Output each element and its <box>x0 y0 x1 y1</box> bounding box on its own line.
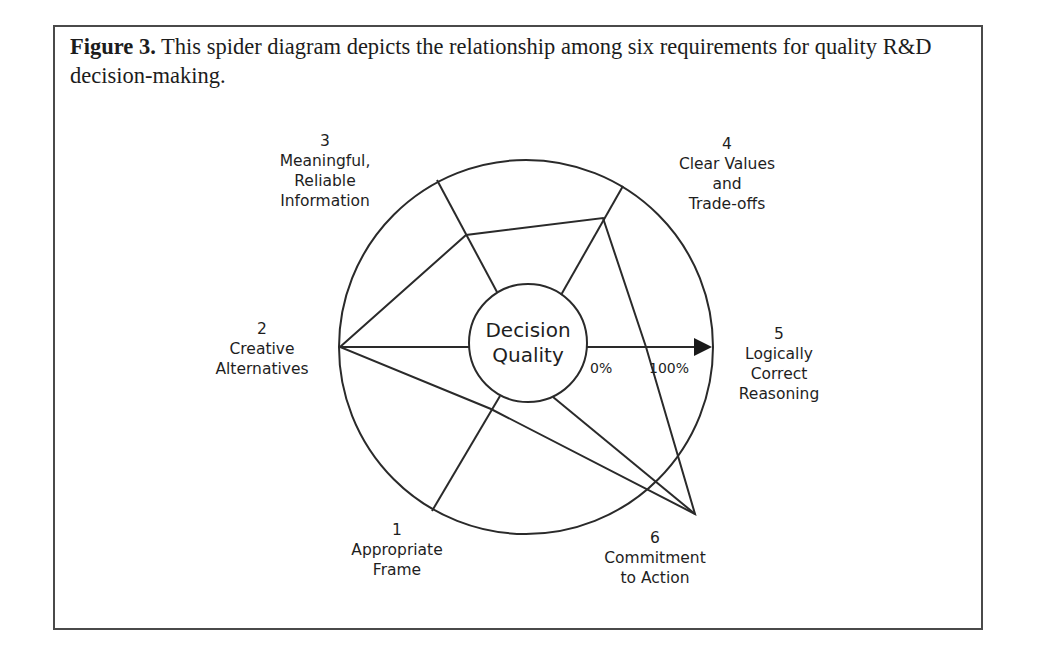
axis-text-line: Appropriate <box>351 540 442 560</box>
center-label-line2: Quality <box>485 343 570 368</box>
axis-label-3: 3 Meaningful, Reliable Information <box>280 131 371 211</box>
center-label: Decision Quality <box>485 318 570 368</box>
axis-text-line: Reasoning <box>739 384 819 404</box>
axis-text-line: Meaningful, <box>280 151 371 171</box>
spoke-1 <box>432 396 500 511</box>
axis-text-line: Logically <box>739 344 819 364</box>
axis-text-line: Clear Values <box>679 154 775 174</box>
axis-text-line: Commitment <box>604 548 705 568</box>
axis-text-line: and <box>679 174 775 194</box>
spoke-3 <box>437 180 497 292</box>
axis-text-line: Frame <box>351 560 442 580</box>
axis-number: 4 <box>679 134 775 154</box>
axis-label-5: 5 Logically Correct Reasoning <box>739 324 819 404</box>
axis-number: 2 <box>215 319 308 339</box>
axis-label-4: 4 Clear Values and Trade-offs <box>679 134 775 214</box>
axis-number: 1 <box>351 520 442 540</box>
scale-max-label: 100% <box>649 360 689 376</box>
axis-text-line: to Action <box>604 568 705 588</box>
scale-min-label: 0% <box>590 360 612 376</box>
axis-label-6: 6 Commitment to Action <box>604 528 705 588</box>
spoke-6 <box>553 397 695 514</box>
arrow-head-icon <box>694 338 712 356</box>
axis-text-line: Creative <box>215 339 308 359</box>
axis-text-line: Correct <box>739 364 819 384</box>
axis-number: 5 <box>739 324 819 344</box>
axis-text-line: Reliable <box>280 171 371 191</box>
axis-label-2: 2 Creative Alternatives <box>215 319 308 379</box>
spoke-4 <box>561 186 623 295</box>
center-label-line1: Decision <box>485 318 570 343</box>
axis-text-line: Information <box>280 191 371 211</box>
axis-number: 6 <box>604 528 705 548</box>
axis-text-line: Trade-offs <box>679 194 775 214</box>
axis-label-1: 1 Appropriate Frame <box>351 520 442 580</box>
axis-number: 3 <box>280 131 371 151</box>
axis-text-line: Alternatives <box>215 359 308 379</box>
